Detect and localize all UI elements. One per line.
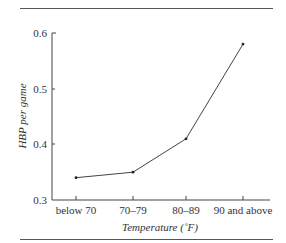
y-tick-label: 0.3 xyxy=(33,194,47,206)
axes xyxy=(52,33,270,200)
data-line xyxy=(76,44,243,178)
x-tick-label: 70–79 xyxy=(119,204,147,216)
figure: 0.3 0.4 0.5 0.6 below 70 70–79 80–89 90 … xyxy=(0,0,286,243)
series-hbp-per-game xyxy=(75,43,245,179)
y-tick-label: 0.6 xyxy=(33,27,47,39)
data-point xyxy=(132,171,135,174)
y-tick-labels: 0.3 0.4 0.5 0.6 xyxy=(33,27,47,206)
y-tick-label: 0.4 xyxy=(33,138,47,150)
x-tick-label: 90 and above xyxy=(214,204,273,216)
x-axis-title: Temperature (˚F) xyxy=(122,221,198,234)
y-tick-label: 0.5 xyxy=(33,83,47,95)
x-tick-label: 80–89 xyxy=(172,204,200,216)
line-chart: 0.3 0.4 0.5 0.6 below 70 70–79 80–89 90 … xyxy=(0,0,286,243)
x-tick-labels: below 70 70–79 80–89 90 and above xyxy=(56,204,273,216)
data-point xyxy=(185,137,188,140)
bottom-rule xyxy=(20,239,273,240)
data-markers xyxy=(75,43,245,179)
data-point xyxy=(242,43,245,46)
x-tick-label: below 70 xyxy=(56,204,97,216)
y-axis-title: HBP per game xyxy=(16,83,28,149)
data-point xyxy=(75,176,78,179)
